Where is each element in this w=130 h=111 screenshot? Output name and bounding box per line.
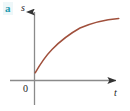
- origin-label: 0: [23, 84, 28, 94]
- figure-panel: a s t 0: [0, 0, 130, 111]
- x-axis-label: t: [114, 88, 117, 98]
- data-curve: [35, 18, 119, 72]
- y-axis-label: s: [21, 3, 25, 13]
- plot-area: [0, 0, 130, 111]
